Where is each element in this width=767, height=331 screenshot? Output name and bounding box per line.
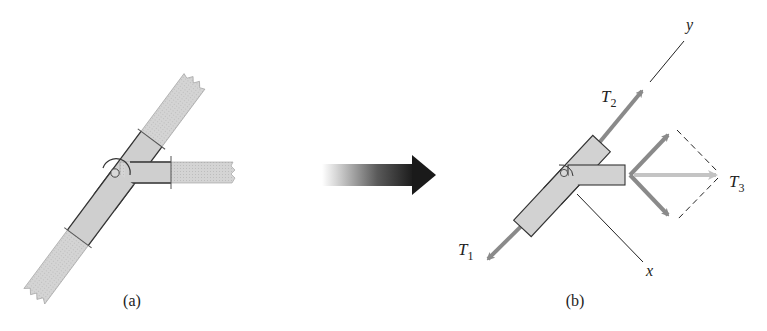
label-t1: T1: [458, 240, 473, 263]
transition-arrow-icon: [322, 155, 436, 195]
pin-icon: [111, 169, 119, 177]
label-x-axis: x: [645, 262, 653, 279]
t3-component-up-arrow: [630, 135, 668, 175]
panel-b-caption: (b): [566, 292, 585, 310]
truss-joint-diagram: (a) T2: [0, 0, 767, 331]
free-body-stub: [568, 165, 625, 185]
pin-icon: [560, 169, 567, 176]
label-y-axis: y: [684, 16, 694, 34]
t3-component-down-arrow: [630, 175, 668, 215]
label-t2: T2: [601, 87, 616, 110]
y-axis-line: [650, 41, 684, 82]
label-t3: T3: [729, 172, 744, 195]
panel-a: (a): [20, 69, 235, 310]
x-axis-line: [577, 194, 643, 262]
panel-a-caption: (a): [123, 292, 141, 310]
panel-b: T2 T3 T1 x y (b): [458, 16, 744, 310]
